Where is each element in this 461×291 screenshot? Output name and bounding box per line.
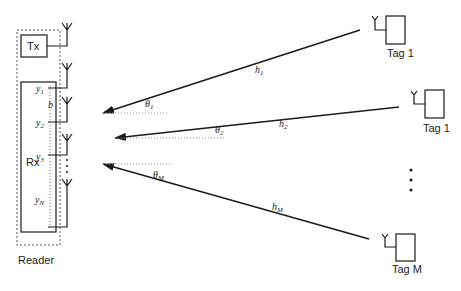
rfid-diagram: Reader Tx Rx y1 y2 y3 yN b θ1 h1 <box>0 0 461 291</box>
svg-text:y1: y1 <box>35 83 44 96</box>
tag-1-label: Tag 1 <box>387 47 414 59</box>
antenna-spacing-label: b <box>48 99 53 110</box>
tag-1-antenna-icon <box>372 16 386 30</box>
antenna-ellipsis <box>66 159 68 173</box>
rx-output-y1: y1 <box>35 83 44 96</box>
tag-M-body <box>396 234 415 261</box>
signal-path-tag1 <box>103 30 360 113</box>
channel-label-h1: h1 <box>255 64 264 77</box>
rx-output-y2: y2 <box>35 117 44 130</box>
tx-antenna-icon <box>47 23 72 46</box>
tag-2-label: Tag 1 <box>423 122 450 134</box>
tag-2-body <box>425 90 444 118</box>
rx-output-yN: yN <box>34 194 44 207</box>
tag-M-label: Tag M <box>392 263 422 275</box>
svg-text:yN: yN <box>34 194 44 207</box>
tag-2-antenna-icon <box>411 91 425 104</box>
tag-M: Tag M <box>382 234 422 275</box>
signal-path-tagM <box>103 164 369 239</box>
signal-path-tag2 <box>115 107 399 138</box>
tag-1: Tag 1 <box>372 16 414 59</box>
tag-M-antenna-icon <box>382 234 396 247</box>
angle-label-1: θ1 <box>145 98 153 111</box>
tx-label: Tx <box>27 40 40 52</box>
reader-label: Reader <box>18 254 54 266</box>
angle-label-M: θM <box>153 169 165 182</box>
tag-ellipsis <box>410 169 413 192</box>
tag-2: Tag 1 <box>411 90 450 134</box>
svg-text:y2: y2 <box>35 117 44 130</box>
tag-1-body <box>386 16 405 44</box>
reader-boundary <box>17 30 60 245</box>
